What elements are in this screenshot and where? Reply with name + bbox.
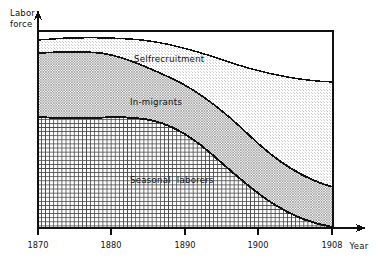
x-tick-label-1908: 1908: [321, 240, 342, 250]
x-tick-label-1880: 1880: [100, 240, 121, 250]
chart-figure: 1870 1880 1890 1900 1908 Labor force Yea…: [0, 0, 381, 260]
x-tick-label-1890: 1890: [174, 240, 195, 250]
annotation-in-migrants: In-migrants: [130, 97, 182, 107]
annotation-selfrecruitment: Selfrecruitment: [134, 54, 205, 64]
x-axis-ticks: [38, 228, 332, 235]
x-tick-label-1870: 1870: [27, 240, 48, 250]
x-axis-label: Year: [349, 241, 369, 251]
annotation-seasonal-laborers: Seasonal laborers: [130, 175, 214, 185]
y-axis-label-line1: Labor: [10, 8, 35, 18]
y-axis-label-line2: force: [10, 19, 32, 29]
x-tick-label-1900: 1900: [247, 240, 268, 250]
